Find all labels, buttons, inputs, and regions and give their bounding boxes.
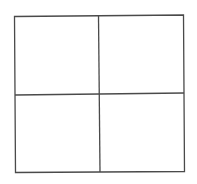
grid-cell-bottom-left (16, 96, 99, 172)
grid-cell-bottom-right (100, 94, 184, 171)
grid-cell-top-left (15, 16, 98, 94)
grid-cell-top-right (99, 16, 183, 93)
two-by-two-grid-diagram (0, 0, 197, 184)
